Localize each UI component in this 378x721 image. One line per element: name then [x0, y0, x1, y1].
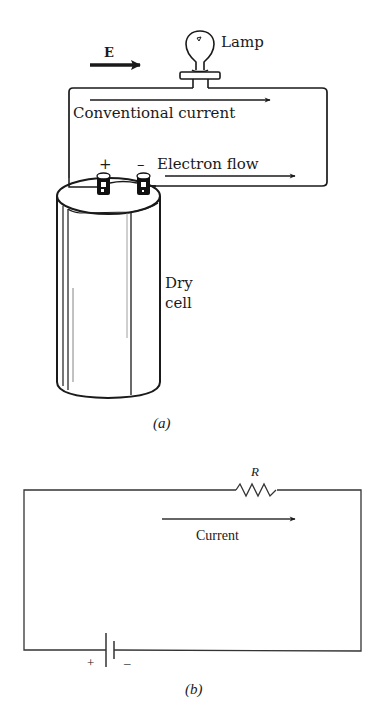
field-label: E [104, 45, 114, 60]
caption-b: (b) [185, 681, 203, 698]
negative-terminal-icon [137, 173, 150, 195]
figure-a: E Lamp Conventional current + – Electron… [57, 31, 327, 432]
lamp-label: Lamp [221, 33, 264, 51]
electric-field-indicator: E [90, 45, 140, 65]
battery-icon [106, 633, 114, 667]
circuit-wire-b [24, 490, 361, 651]
resistor-icon [236, 484, 276, 496]
caption-a: (a) [153, 415, 171, 432]
dry-cell: Dry cell [57, 173, 193, 398]
circuit-figure: E Lamp Conventional current + – Electron… [0, 0, 378, 721]
dry-cell-label-line1: Dry [165, 274, 193, 292]
resistor-label: R [250, 464, 259, 479]
figure-b: R Current + – (b) [24, 464, 361, 698]
plus-terminal-label: + [99, 155, 112, 173]
battery-minus-label: – [123, 655, 131, 670]
conventional-current-label: Conventional current [73, 104, 235, 122]
battery-plus-label: + [87, 655, 94, 670]
current-label: Current [196, 528, 239, 543]
dry-cell-label-line2: cell [165, 294, 192, 312]
electron-flow-label: Electron flow [157, 155, 259, 173]
lamp-base-icon [180, 72, 220, 79]
lamp: Lamp [180, 31, 264, 88]
minus-terminal-label: – [137, 155, 145, 173]
positive-terminal-icon [97, 173, 110, 195]
